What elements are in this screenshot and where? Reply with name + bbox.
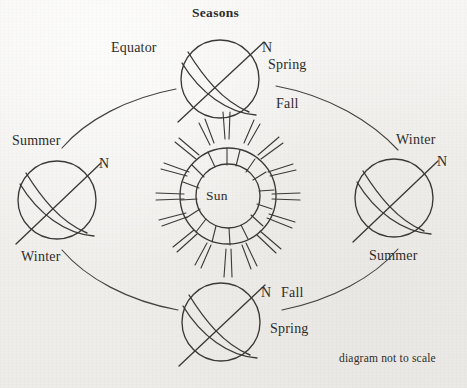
right-globe-axis	[353, 161, 438, 242]
label-right-north-pole: N	[437, 155, 447, 169]
label-sun: Sun	[206, 189, 228, 203]
label-bottom-fall: Fall	[281, 286, 304, 300]
label-equator: Equator	[111, 41, 157, 55]
label-left-summer: Summer	[12, 134, 61, 148]
left-globe-equator	[20, 184, 94, 236]
label-bottom-north-pole: N	[261, 286, 271, 300]
top-globe-meridian	[188, 52, 249, 112]
right-globe-equator	[357, 182, 431, 234]
bottom-globe-axis	[179, 285, 265, 366]
label-left-winter: Winter	[21, 250, 61, 264]
footnote-not-to-scale: diagram not to scale	[339, 353, 436, 365]
left-globe-outline	[18, 161, 96, 239]
diagram-canvas: Seasons Equator N Spring Fall Summer N W…	[0, 0, 467, 388]
label-top-fall: Fall	[276, 97, 299, 111]
label-right-winter: Winter	[396, 133, 436, 147]
left-globe-graphic	[16, 161, 101, 244]
label-left-north-pole: N	[99, 157, 109, 171]
sun-outer-ring	[180, 148, 276, 244]
diagram-title: Seasons	[192, 6, 239, 20]
top-globe-graphic	[178, 40, 264, 122]
right-globe-meridian	[363, 171, 424, 231]
sun-graphic	[156, 112, 300, 277]
label-right-summer: Summer	[369, 249, 418, 263]
left-globe-axis	[16, 163, 101, 244]
label-bottom-spring: Spring	[270, 322, 309, 336]
bottom-globe-meridian	[189, 295, 250, 355]
left-globe-meridian	[26, 173, 87, 233]
sun-rays-outer	[156, 112, 300, 277]
bottom-globe-graphic	[179, 283, 265, 366]
right-globe-outline	[355, 159, 433, 237]
label-top-spring: Spring	[268, 58, 307, 72]
orbit-arc-lower-left	[62, 250, 178, 310]
right-globe-graphic	[353, 159, 438, 242]
seasons-figure	[0, 0, 467, 388]
label-top-north-pole: N	[262, 41, 272, 55]
orbit-arc-upper-left	[62, 89, 176, 148]
